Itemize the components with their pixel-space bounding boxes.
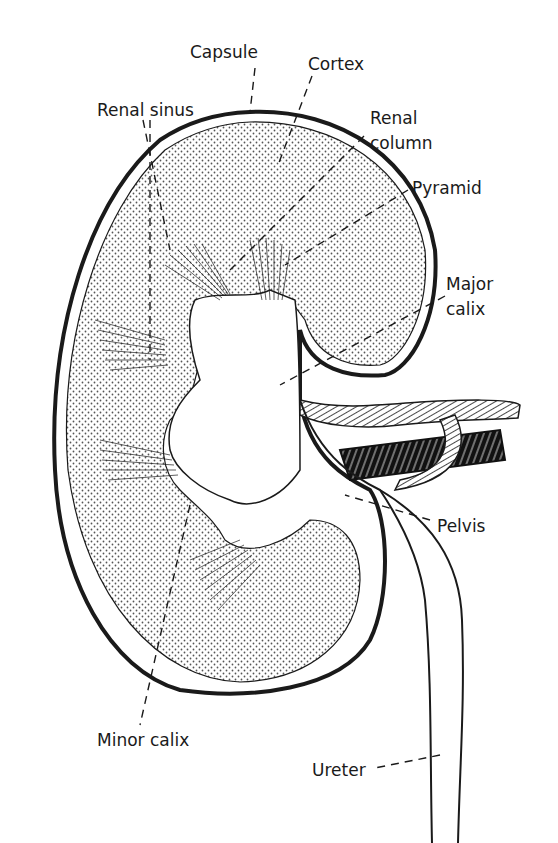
label-pelvis: Pelvis bbox=[437, 516, 485, 536]
ureter-inner bbox=[380, 490, 463, 843]
label-renal-column-line1: Renal bbox=[370, 108, 417, 128]
label-major-calix-line2: calix bbox=[446, 299, 485, 319]
label-cortex: Cortex bbox=[308, 54, 364, 74]
label-renal-column-line2: column bbox=[370, 133, 433, 153]
kidney-diagram bbox=[0, 0, 558, 843]
label-renal-sinus: Renal sinus bbox=[97, 100, 194, 120]
label-minor-calix: Minor calix bbox=[97, 730, 189, 750]
label-major-calix-line1: Major bbox=[446, 274, 493, 294]
label-ureter: Ureter bbox=[312, 760, 366, 780]
label-pyramid: Pyramid bbox=[412, 178, 482, 198]
label-capsule: Capsule bbox=[190, 42, 258, 62]
renal-artery bbox=[300, 400, 520, 427]
